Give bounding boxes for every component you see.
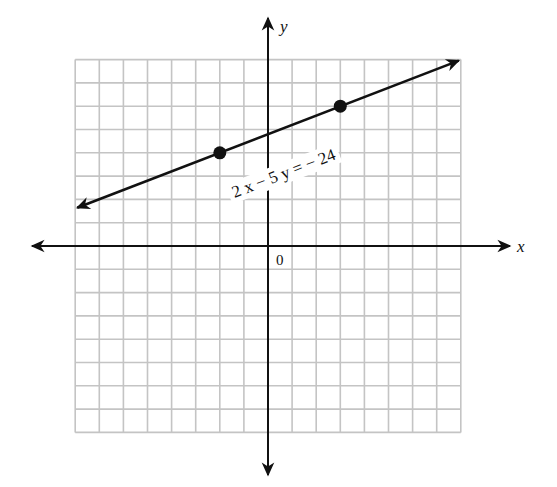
equation-annotation: 2 x − 5 y = − 24 <box>225 142 342 204</box>
data-point <box>334 100 347 113</box>
coordinate-plane: x y 0 2 x − 5 y = − 24 <box>0 0 557 487</box>
x-axis-label: x <box>516 237 525 256</box>
origin-label: 0 <box>276 252 284 268</box>
data-point <box>213 146 226 159</box>
y-axis-label: y <box>278 17 288 36</box>
